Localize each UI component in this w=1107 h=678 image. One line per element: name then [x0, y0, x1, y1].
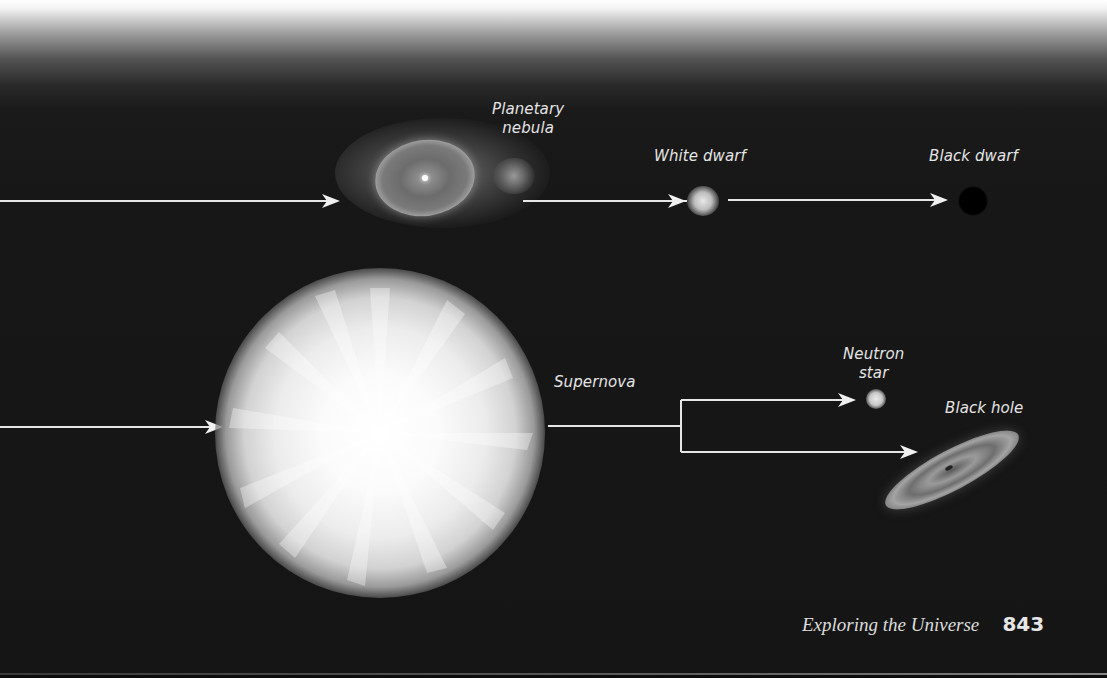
label-neutron-star: Neutron star	[843, 345, 904, 383]
label-black-dwarf: Black dwarf	[929, 147, 1018, 166]
arrow-to-supernova	[0, 418, 230, 436]
running-title: Exploring the Universe	[802, 614, 979, 635]
page-footer: Exploring the Universe 843	[802, 612, 1044, 636]
black-dwarf-image	[958, 186, 988, 216]
arrow-to-black-dwarf	[728, 191, 953, 209]
black-hole-image	[872, 420, 1032, 520]
arrow-to-planetary-nebula	[0, 192, 345, 210]
page-number: 843	[1002, 612, 1044, 636]
neutron-star-image	[866, 389, 886, 409]
label-planetary-nebula: Planetary nebula	[492, 100, 564, 138]
label-black-hole: Black hole	[945, 399, 1023, 418]
supernova-image	[215, 268, 545, 598]
arrow-to-white-dwarf	[522, 192, 687, 210]
white-dwarf-image	[687, 186, 719, 216]
label-white-dwarf: White dwarf	[654, 147, 746, 166]
